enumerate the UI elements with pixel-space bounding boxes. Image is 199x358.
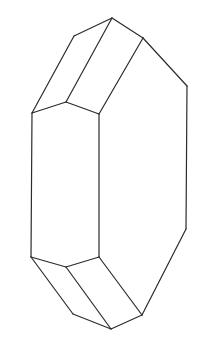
crystal-edge-mid-upper-to-front-upper (66, 102, 99, 114)
crystal-edge-top-left-to-left-upper (32, 36, 74, 113)
crystal-edge-front-lower-to-bottom-right (99, 257, 142, 315)
crystal-edge-bottom-right-to-right-lower (142, 229, 186, 315)
crystal-edge-top-right-to-right-upper (143, 38, 187, 86)
crystal-edge-left-lower-to-mid-lower (31, 257, 66, 267)
crystal-edge-top-right-to-front-upper (99, 38, 143, 114)
crystal-edge-left-upper-to-left-lower (31, 113, 32, 257)
crystal-edge-bottom-apex-to-bottom-right (111, 315, 142, 329)
crystal-edge-top-left-to-top-apex (74, 18, 112, 36)
crystal-edge-mid-lower-to-front-lower (66, 257, 99, 267)
crystal-edge-top-apex-to-top-right (112, 18, 143, 38)
crystal-edge-right-upper-to-right-lower (186, 86, 187, 229)
crystal-edge-left-lower-to-bottom-left (31, 257, 73, 314)
crystal-edge-top-apex-to-mid-upper (66, 18, 112, 102)
crystal-diagram (0, 0, 199, 358)
